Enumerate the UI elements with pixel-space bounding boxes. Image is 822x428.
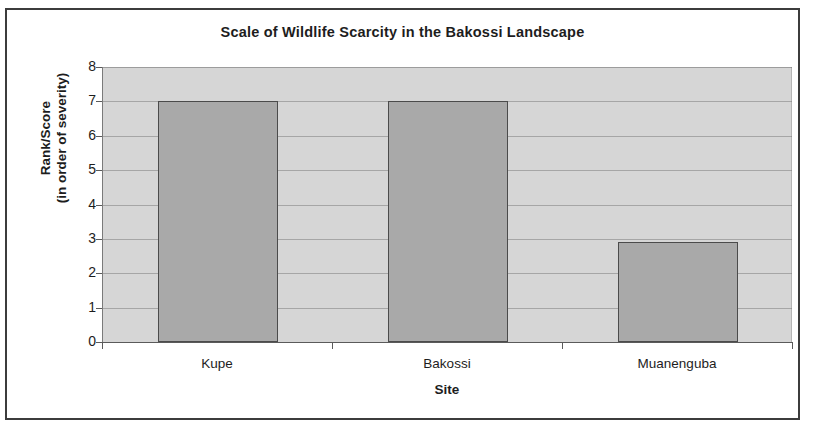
y-tick-label-0: 0 <box>70 333 96 349</box>
y-tick-label-4: 4 <box>70 196 96 212</box>
plot-area <box>102 67 792 342</box>
x-tick-mark-2 <box>562 342 563 349</box>
x-tick-label-muanenguba: Muanenguba <box>638 356 717 371</box>
chart-frame: Scale of Wildlife Scarcity in the Bakoss… <box>5 8 800 420</box>
chart-title: Scale of Wildlife Scarcity in the Bakoss… <box>7 24 798 40</box>
y-tick-label-1: 1 <box>70 299 96 315</box>
x-axis-title: Site <box>102 382 792 397</box>
bar-muanenguba <box>618 242 738 342</box>
y-tick-label-5: 5 <box>70 161 96 177</box>
y-tick-label-7: 7 <box>70 92 96 108</box>
bar-bakossi <box>388 101 508 342</box>
y-tick-label-2: 2 <box>70 264 96 280</box>
x-tick-label-bakossi: Bakossi <box>423 356 470 371</box>
x-tick-mark-1 <box>332 342 333 349</box>
bar-kupe <box>158 101 278 342</box>
y-axis-ticks: 012345678 <box>64 67 96 342</box>
y-tick-label-3: 3 <box>70 230 96 246</box>
x-tick-label-kupe: Kupe <box>201 356 233 371</box>
x-tick-mark-0 <box>102 342 103 349</box>
x-axis-ticks: KupeBakossiMuanenguba <box>102 342 792 382</box>
x-tick-mark-end <box>792 342 793 349</box>
y-tick-label-8: 8 <box>70 58 96 74</box>
y-axis-title-line1: Rank/Score <box>38 38 54 238</box>
y-tick-label-6: 6 <box>70 127 96 143</box>
gridline-8 <box>103 67 792 68</box>
